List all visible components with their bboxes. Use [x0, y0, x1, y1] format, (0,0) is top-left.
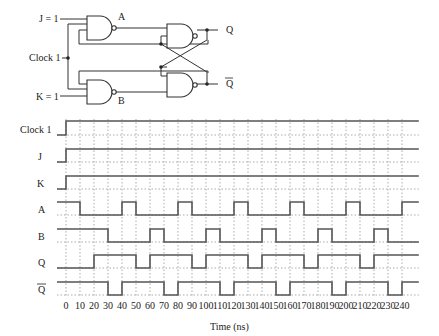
tick-label: 240	[395, 300, 410, 311]
tick-label: 120	[227, 300, 242, 311]
tick-label: 60	[145, 300, 155, 311]
waveform-b	[57, 229, 419, 242]
tick-label: 50	[131, 300, 141, 311]
signal-labels: Clock 1JKABQQ	[20, 124, 51, 295]
output-label-q: Q	[226, 24, 234, 35]
nand-gate-a	[87, 16, 112, 40]
nand-gate-q	[167, 24, 193, 48]
timing-diagram: Clock 1JKABQQ 01020304050607080901001101…	[20, 119, 419, 333]
nand-gate-q-bar	[167, 73, 193, 97]
waveform-clock	[57, 121, 419, 135]
tick-label: 30	[103, 300, 113, 311]
cross-junction-top	[159, 42, 163, 46]
node-label-b: B	[118, 95, 125, 106]
clock-branch-wires	[68, 24, 87, 89]
circuit-diagram: J = 1 Clock 1 K = 1 A B Q	[29, 11, 234, 106]
signal-label-j: J	[38, 151, 42, 162]
tick-label: 220	[367, 300, 382, 311]
waveform-j	[57, 149, 419, 162]
waveform-q	[57, 255, 419, 268]
cross-junction-bottom	[159, 65, 163, 69]
tick-label: 230	[381, 300, 396, 311]
signal-label-clock: Clock 1	[20, 124, 51, 135]
tick-label: 100	[199, 300, 214, 311]
timing-grid	[57, 119, 419, 297]
waveform-q-bar	[57, 282, 419, 295]
tick-label: 190	[325, 300, 340, 311]
time-axis-ticks: 0102030405060708090100110120130140150160…	[64, 300, 410, 311]
nand-gate-b	[87, 80, 112, 104]
time-axis-label: Time (ns)	[210, 321, 249, 333]
waveform-k	[57, 176, 419, 189]
signal-label-a: A	[38, 204, 46, 215]
tick-label: 210	[353, 300, 368, 311]
tick-label: 40	[117, 300, 127, 311]
tick-label: 0	[64, 300, 69, 311]
input-label-j: J = 1	[39, 13, 59, 24]
tick-label: 160	[283, 300, 298, 311]
tick-label: 130	[241, 300, 256, 311]
inversion-bubble-b	[112, 90, 116, 94]
inversion-bubble-q	[193, 34, 197, 38]
signal-label-b: B	[38, 231, 45, 242]
output-label-q-bar: Q	[226, 78, 234, 89]
inversion-bubble-q-bar	[193, 83, 197, 87]
input-label-k: K = 1	[36, 91, 59, 102]
tick-label: 70	[159, 300, 169, 311]
signal-waveforms	[57, 121, 419, 295]
clock-junction	[66, 56, 70, 60]
signal-label-q: Q	[38, 257, 46, 268]
input-label-clock: Clock 1	[29, 52, 60, 63]
tick-label: 20	[89, 300, 99, 311]
tick-label: 80	[173, 300, 183, 311]
tick-label: 150	[269, 300, 284, 311]
signal-label-k: K	[37, 178, 45, 189]
tick-label: 170	[297, 300, 312, 311]
inversion-bubble-a	[112, 26, 116, 30]
tick-label: 200	[339, 300, 354, 311]
signal-label-q-bar: Q	[38, 284, 46, 295]
jk-flip-flop-figure: J = 1 Clock 1 K = 1 A B Q	[0, 0, 439, 336]
tick-label: 180	[311, 300, 326, 311]
tick-label: 110	[213, 300, 228, 311]
node-label-a: A	[118, 11, 126, 22]
tick-label: 90	[187, 300, 197, 311]
waveform-a	[57, 202, 419, 215]
tick-label: 10	[75, 300, 85, 311]
tick-label: 140	[255, 300, 270, 311]
